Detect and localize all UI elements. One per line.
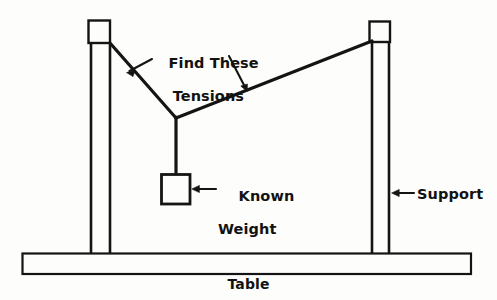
known-weight-label: Known Weight bbox=[218, 172, 294, 269]
right-support-post bbox=[370, 22, 391, 254]
tensions-label-line1: Find These bbox=[169, 55, 259, 71]
right-post-cap bbox=[370, 22, 391, 43]
diagram-canvas: Find These Tensions Known Weight Support… bbox=[0, 0, 497, 300]
tensions-label-line2: Tensions bbox=[148, 88, 259, 104]
left-post-cap bbox=[89, 21, 111, 44]
support-arrow-icon bbox=[392, 189, 414, 196]
left-support-post bbox=[89, 21, 111, 254]
known-weight-arrow-icon bbox=[192, 185, 216, 192]
known-weight-label-line2: Weight bbox=[218, 221, 294, 237]
support-label: Support bbox=[417, 186, 483, 202]
known-weight-block bbox=[162, 175, 191, 205]
known-weight-label-line1: Known bbox=[239, 188, 295, 204]
find-these-tensions-label: Find These Tensions bbox=[148, 39, 259, 136]
table-label: Table bbox=[0, 277, 497, 293]
